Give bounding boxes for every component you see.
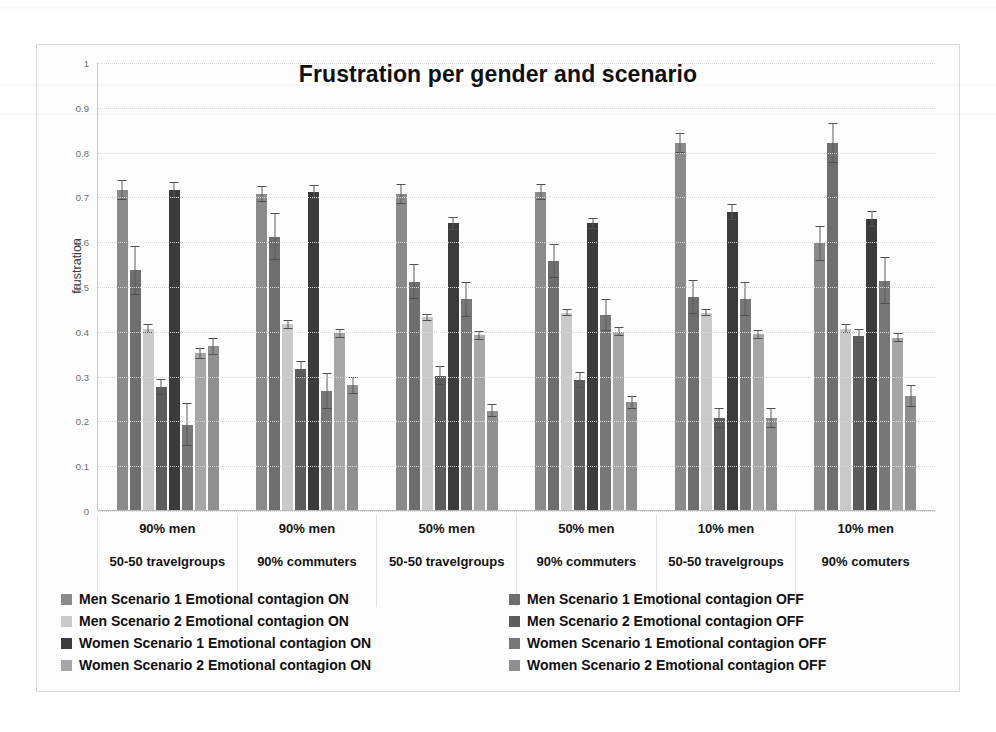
error-bar-stem — [693, 280, 694, 314]
error-bar — [728, 204, 737, 220]
legend-item[interactable]: Women Scenario 2 Emotional contagion OFF — [509, 657, 937, 673]
y-tick-label: 1 — [84, 58, 89, 69]
error-bar — [575, 372, 584, 388]
error-bar-stem — [771, 408, 772, 428]
bar[interactable] — [282, 324, 293, 510]
legend-item[interactable]: Women Scenario 2 Emotional contagion ON — [61, 657, 509, 673]
bar[interactable] — [879, 281, 890, 510]
error-bar-stem — [706, 309, 707, 316]
legend-item[interactable]: Men Scenario 1 Emotional contagion OFF — [509, 591, 937, 607]
bar[interactable] — [143, 329, 154, 510]
y-tick-label: 0.2 — [76, 416, 89, 427]
error-bar — [702, 309, 711, 316]
y-tick-label: 0.3 — [76, 371, 89, 382]
legend-item[interactable]: Women Scenario 1 Emotional contagion OFF — [509, 635, 937, 651]
legend-label: Men Scenario 1 Emotional contagion ON — [79, 591, 349, 607]
error-bar-stem — [261, 186, 262, 202]
error-bar-stem — [300, 361, 301, 377]
y-tick-label: 0.1 — [76, 461, 89, 472]
gridline — [98, 242, 935, 243]
error-bar-stem — [453, 217, 454, 230]
bar[interactable] — [892, 338, 903, 510]
bar[interactable] — [548, 261, 559, 510]
error-bar — [335, 329, 344, 338]
bar[interactable] — [422, 317, 433, 510]
error-bar-stem — [631, 396, 632, 409]
error-bar — [828, 123, 837, 163]
error-bar — [588, 218, 597, 229]
bar[interactable] — [347, 385, 358, 510]
error-bar-stem — [605, 299, 606, 330]
bar[interactable] — [321, 391, 332, 510]
legend-item[interactable]: Men Scenario 2 Emotional contagion ON — [61, 613, 509, 629]
error-bar-stem — [884, 257, 885, 304]
bar[interactable] — [487, 411, 498, 510]
bar[interactable] — [308, 192, 319, 510]
bar[interactable] — [535, 192, 546, 510]
error-bar — [601, 299, 610, 330]
bar[interactable] — [626, 402, 637, 510]
bar[interactable] — [169, 190, 180, 510]
error-bar — [689, 280, 698, 314]
y-tick-label: 0.9 — [76, 102, 89, 113]
error-bar — [196, 348, 205, 359]
legend-label: Women Scenario 2 Emotional contagion OFF — [527, 657, 826, 673]
bar[interactable] — [840, 329, 851, 510]
bar[interactable] — [701, 313, 712, 510]
error-bar-stem — [352, 377, 353, 395]
error-bar — [549, 244, 558, 278]
bar[interactable] — [688, 297, 699, 510]
bar[interactable] — [409, 282, 420, 510]
error-bar-stem — [832, 123, 833, 163]
x-label-line-2: 50-50 travelgroups — [657, 554, 796, 571]
y-tick-label: 0.6 — [76, 237, 89, 248]
x-label-line-2: 90% commuters — [238, 554, 377, 571]
x-label-line-2: 90% commuters — [517, 554, 656, 571]
bar[interactable] — [561, 313, 572, 510]
error-bar — [449, 217, 458, 230]
bar[interactable] — [853, 336, 864, 510]
error-bar — [296, 361, 305, 377]
x-label-line-2: 50-50 travelgroups — [377, 554, 516, 571]
bar[interactable] — [117, 190, 128, 510]
plot-area — [97, 63, 935, 511]
legend-item[interactable]: Men Scenario 1 Emotional contagion ON — [61, 591, 509, 607]
legend-item[interactable]: Men Scenario 2 Emotional contagion OFF — [509, 613, 937, 629]
bar[interactable] — [766, 418, 777, 510]
error-bar — [270, 213, 279, 260]
legend-swatch-icon — [509, 594, 520, 605]
y-tick-label: 0 — [84, 506, 89, 517]
y-tick-label: 0.8 — [76, 147, 89, 158]
error-bar — [183, 403, 192, 446]
bar[interactable] — [269, 237, 280, 510]
error-bar — [170, 182, 179, 198]
gridline — [98, 197, 935, 198]
y-tick-label: 0.5 — [76, 282, 89, 293]
legend-label: Men Scenario 2 Emotional contagion ON — [79, 613, 349, 629]
error-bar-stem — [427, 314, 428, 321]
bar[interactable] — [600, 315, 611, 510]
bar[interactable] — [130, 270, 141, 510]
error-bar — [880, 257, 889, 304]
bar[interactable] — [208, 346, 219, 510]
bar[interactable] — [905, 396, 916, 510]
error-bar-stem — [161, 379, 162, 395]
error-bar-stem — [339, 329, 340, 338]
y-axis-ticks: 00.10.20.30.40.50.60.70.80.91 — [65, 63, 95, 511]
legend-label: Men Scenario 2 Emotional contagion OFF — [527, 613, 804, 629]
error-bar-stem — [187, 403, 188, 446]
bar[interactable] — [156, 387, 167, 510]
bar[interactable] — [295, 369, 306, 510]
bar[interactable] — [435, 376, 446, 510]
bar[interactable] — [474, 335, 485, 510]
bar[interactable] — [182, 425, 193, 510]
error-bar-stem — [401, 184, 402, 204]
error-bar-stem — [213, 338, 214, 356]
error-bar-stem — [414, 264, 415, 300]
error-bar-stem — [910, 385, 911, 407]
error-bar-stem — [287, 320, 288, 329]
error-bar-stem — [871, 211, 872, 227]
bar[interactable] — [714, 418, 725, 510]
bar[interactable] — [574, 380, 585, 510]
legend-item[interactable]: Women Scenario 1 Emotional contagion ON — [61, 635, 509, 651]
